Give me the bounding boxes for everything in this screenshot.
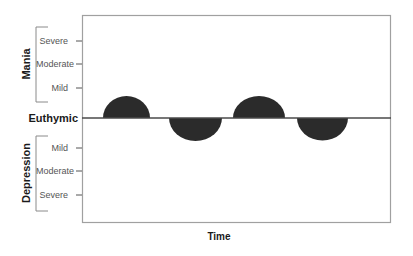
- x-axis-title: Time: [207, 231, 231, 242]
- mood-cycle-diagram: Euthymic Mania Severe Moderate Mild Depr…: [0, 0, 413, 256]
- mania-label: Mania: [20, 48, 32, 80]
- mania-episode-2: [233, 96, 285, 118]
- level-depression-moderate: Moderate: [36, 166, 74, 176]
- level-mania-mild: Mild: [51, 83, 68, 93]
- depression-episode-1: [169, 118, 222, 141]
- mania-episode-1: [103, 96, 150, 118]
- level-mania-moderate: Moderate: [36, 59, 74, 69]
- depression-label: Depression: [20, 143, 32, 203]
- euthymic-label: Euthymic: [28, 112, 78, 124]
- level-depression-mild: Mild: [51, 143, 68, 153]
- level-mania-severe: Severe: [39, 36, 68, 46]
- level-depression-severe: Severe: [39, 190, 68, 200]
- depression-episode-2: [297, 118, 348, 141]
